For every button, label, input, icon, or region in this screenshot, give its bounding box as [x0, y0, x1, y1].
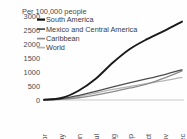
chart-canvas: Per 100,000 people0500100015002000250030…	[0, 0, 187, 139]
series-line-mexico-and-central-america	[44, 70, 182, 100]
y-axis-tick-label: 0	[36, 96, 40, 105]
y-axis-tick-label: 1000	[24, 68, 40, 77]
x-axis-tick-label: 18-Oct	[144, 134, 153, 139]
x-axis-tick-label: 20-Jun	[75, 134, 84, 139]
x-axis-tick-label: 18-Sep	[126, 134, 135, 139]
y-axis-tick-label: 2500	[24, 26, 40, 35]
legend-label-mexico-and-central-america: Mexico and Central America	[46, 25, 138, 34]
x-axis-tick-label: 20-Jul	[92, 134, 101, 139]
x-axis-tick-label: 21-May	[57, 134, 66, 139]
y-axis-tick-label: 500	[28, 82, 40, 91]
x-axis-tick-label: 17-Nov	[161, 134, 170, 139]
legend-label-south-america: South America	[46, 15, 94, 24]
x-axis-tick-label: 19-Aug	[109, 134, 118, 139]
legend-label-caribbean: Caribbean	[46, 34, 80, 43]
x-axis-tick-label: 17-Dec	[178, 134, 187, 139]
legend-label-world: World	[46, 43, 65, 52]
y-axis-tick-label: 1500	[24, 54, 40, 63]
x-axis-tick-label: 21-Apr	[40, 133, 49, 139]
line-chart-figure: Per 100,000 people0500100015002000250030…	[0, 0, 187, 139]
